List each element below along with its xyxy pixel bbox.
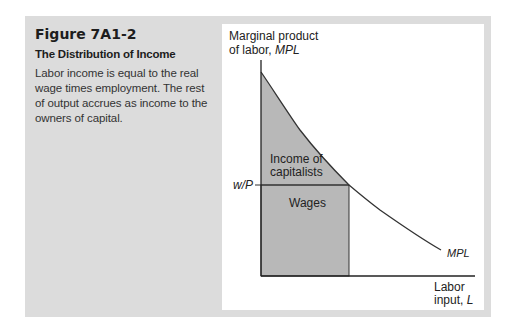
capitalists-label-line1: Income of xyxy=(270,152,323,166)
wage-tick-label: w/P xyxy=(233,178,253,192)
wages-label: Wages xyxy=(289,196,326,210)
y-axis-label-line2: of labor, MPL xyxy=(229,43,300,57)
distribution-chart: Marginal product of labor, MPL Income of… xyxy=(0,0,511,334)
x-axis-label-line2: input, L xyxy=(434,293,473,307)
x-axis-label-line1: Labor xyxy=(434,280,465,294)
capitalists-label-line2: capitalists xyxy=(270,165,323,179)
y-axis-label-line1: Marginal product xyxy=(229,29,319,43)
mpl-curve-label: MPL xyxy=(447,247,470,259)
